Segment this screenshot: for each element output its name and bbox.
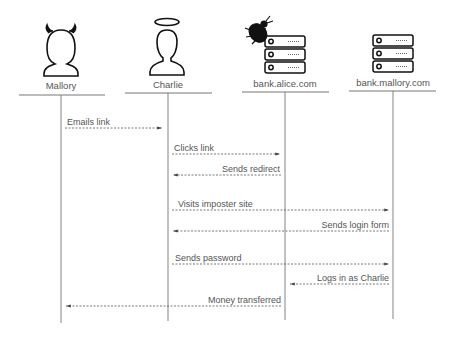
actor-label-bank-alice: bank.alice.com bbox=[253, 78, 316, 89]
message-label-sends-password: Sends password bbox=[175, 253, 242, 263]
server-with-bug-icon bbox=[245, 16, 305, 73]
sequence-diagram: Mallory Charlie bank.alice.com bank.mall… bbox=[0, 0, 453, 340]
server-icon bbox=[373, 35, 413, 72]
message-label-sends-redirect: Sends redirect bbox=[222, 164, 281, 174]
angel-person-icon bbox=[150, 19, 184, 76]
message-label-money-transferred: Money transferred bbox=[208, 295, 281, 305]
actor-label-bank-mallory: bank.mallory.com bbox=[356, 77, 430, 88]
devil-person-icon bbox=[44, 25, 78, 76]
message-label-visits-imposter-site: Visits imposter site bbox=[178, 199, 253, 209]
message-label-emails-link: Emails link bbox=[67, 117, 111, 127]
actor-label-charlie: Charlie bbox=[153, 79, 183, 90]
message-label-clicks-link: Clicks link bbox=[174, 143, 215, 153]
message-label-sends-login-form: Sends login form bbox=[321, 220, 389, 230]
message-label-logs-in-as-charlie: Logs in as Charlie bbox=[317, 273, 389, 283]
actor-label-mallory: Mallory bbox=[46, 80, 77, 91]
